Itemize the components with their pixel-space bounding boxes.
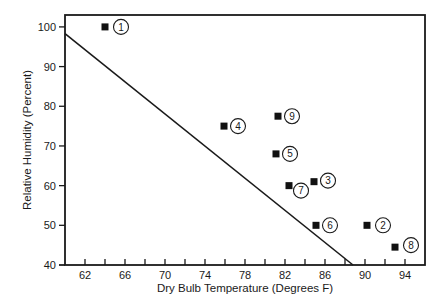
square-marker-icon: [364, 222, 371, 229]
x-tick-label: 74: [199, 269, 211, 281]
data-point-6: 6: [313, 218, 338, 233]
square-marker-icon: [392, 244, 399, 251]
y-axis-ticks: 405060708090100: [38, 21, 65, 271]
plot-area-border: [65, 15, 425, 265]
x-tick-label: 66: [119, 269, 131, 281]
data-point-4: 4: [221, 119, 246, 134]
data-point-7: 7: [286, 182, 309, 198]
y-tick-label: 90: [44, 61, 56, 73]
x-tick-label: 90: [359, 269, 371, 281]
point-label: 4: [235, 121, 241, 132]
x-tick-label: 62: [79, 269, 91, 281]
data-point-3: 3: [311, 173, 336, 188]
y-tick-label: 40: [44, 259, 56, 271]
x-tick-label: 82: [279, 269, 291, 281]
square-marker-icon: [286, 182, 293, 189]
data-point-9: 9: [275, 109, 300, 124]
point-label: 9: [289, 111, 295, 122]
x-tick-label: 78: [239, 269, 251, 281]
square-marker-icon: [102, 23, 109, 30]
data-point-5: 5: [273, 146, 298, 161]
square-marker-icon: [273, 150, 280, 157]
boundary-line: [65, 34, 353, 265]
point-label: 5: [287, 148, 293, 159]
point-label: 6: [327, 220, 333, 231]
data-point-1: 1: [102, 19, 129, 34]
y-tick-label: 50: [44, 219, 56, 231]
square-marker-icon: [311, 178, 318, 185]
x-axis-ticks: 626670747882869094: [59, 259, 411, 281]
plot-frame: [65, 15, 425, 265]
point-label: 3: [325, 175, 331, 186]
square-marker-icon: [275, 113, 282, 120]
y-tick-label: 80: [44, 100, 56, 112]
scatter-chart: 626670747882869094 405060708090100 12345…: [0, 0, 443, 305]
x-tick-label: 70: [159, 269, 171, 281]
y-tick-label: 100: [38, 21, 56, 33]
x-tick-label: 86: [319, 269, 331, 281]
y-axis-label: Relative Humidity (Percent): [21, 70, 33, 210]
x-axis-label: Dry Bulb Temperature (Degrees F): [157, 282, 333, 294]
y-tick-label: 70: [44, 140, 56, 152]
x-tick-label: 94: [399, 269, 411, 281]
point-label: 8: [408, 240, 414, 251]
reference-line: [65, 34, 353, 265]
point-label: 2: [380, 220, 386, 231]
square-marker-icon: [221, 123, 228, 130]
point-label: 1: [118, 22, 124, 33]
data-points: 123456789: [102, 19, 419, 252]
point-label: 7: [298, 185, 304, 196]
data-point-2: 2: [364, 218, 391, 233]
data-point-8: 8: [392, 238, 419, 253]
square-marker-icon: [313, 222, 320, 229]
y-tick-label: 60: [44, 180, 56, 192]
